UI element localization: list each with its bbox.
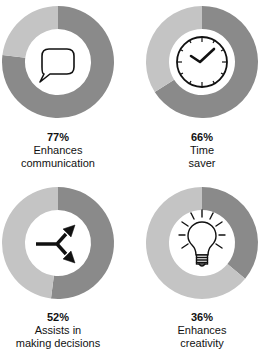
speech-bubble-icon: [40, 49, 74, 82]
donut-chart: [144, 0, 278, 130]
donut-panel-decisions: 52% Assists in making decisions: [0, 180, 134, 353]
percentage-value: 36%: [144, 311, 260, 324]
donut-panel-creativity: 36% Enhances creativity: [144, 180, 278, 353]
percentage-value: 66%: [144, 131, 260, 144]
clock-icon: [177, 37, 227, 87]
donut-chart: [144, 180, 278, 310]
donut-remainder-segment: [2, 6, 58, 58]
light-bulb-icon: [179, 210, 225, 266]
percentage-value: 52%: [0, 311, 116, 324]
donut-chart: [0, 180, 134, 310]
caption-line: creativity: [144, 337, 260, 350]
donut-chart: [0, 0, 134, 130]
donut-value-segment: [51, 187, 114, 299]
caption-line: saver: [144, 157, 260, 170]
caption-line: Enhances: [144, 324, 260, 337]
donut-value-segment: [202, 187, 258, 279]
caption-line: making decisions: [0, 337, 116, 350]
caption-line: Enhances: [0, 144, 116, 157]
caption-line: Assists in: [0, 324, 116, 337]
caption-line: communication: [0, 157, 116, 170]
donut-panel-time-saver: 66% Time saver: [144, 0, 278, 174]
caption-line: Time: [144, 144, 260, 157]
percentage-value: 77%: [0, 131, 116, 144]
donut-panel-communication: 77% Enhances communication: [0, 0, 134, 174]
branching-arrows-icon: [36, 225, 75, 263]
